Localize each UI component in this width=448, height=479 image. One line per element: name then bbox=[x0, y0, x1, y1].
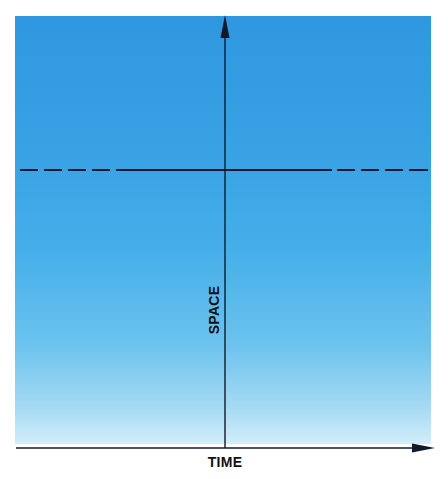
time-axis-label: TIME bbox=[208, 454, 243, 470]
time-axis-arrowhead-icon bbox=[412, 444, 435, 453]
space-axis-label: SPACE bbox=[206, 286, 222, 335]
gradient-background-panel bbox=[15, 16, 431, 444]
space-time-diagram: TIME SPACE bbox=[0, 0, 448, 479]
